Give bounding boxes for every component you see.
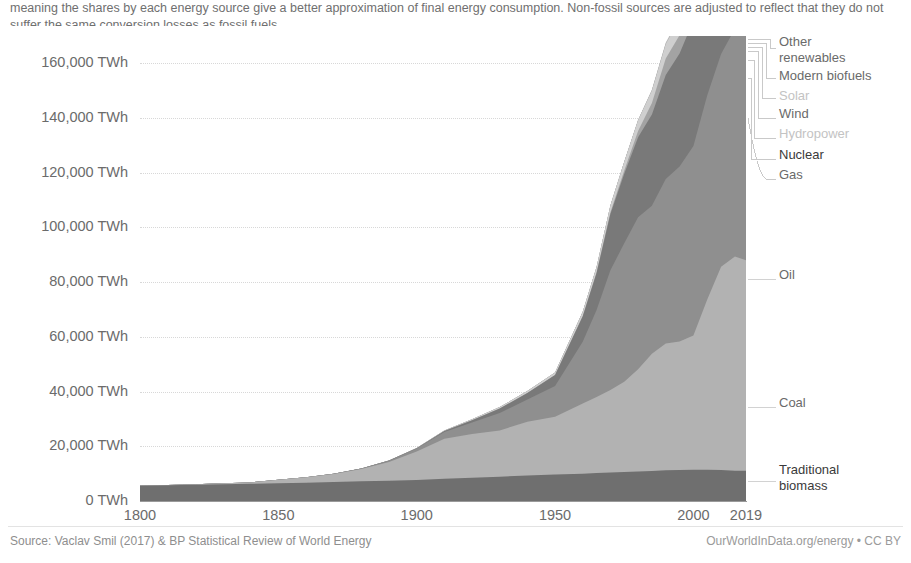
y-axis-tick-label: 0 TWh [0, 492, 128, 508]
x-axis-tick-label: 1900 [377, 507, 457, 523]
y-axis-tick-label: 40,000 TWh [0, 383, 128, 399]
y-axis-tick-label: 160,000 TWh [0, 54, 128, 70]
legend-item-solar[interactable]: Solar [779, 88, 809, 104]
x-axis-tick-label: 1950 [515, 507, 595, 523]
stacked-area-svg [140, 36, 746, 501]
legend-item-nuclear[interactable]: Nuclear [779, 147, 824, 163]
y-axis-tick-label: 60,000 TWh [0, 328, 128, 344]
legend-item-other-renewables[interactable]: Other renewables [779, 34, 846, 65]
x-axis-tick-label: 1800 [100, 507, 180, 523]
y-axis-tick-label: 80,000 TWh [0, 273, 128, 289]
legend-item-hydropower[interactable]: Hydropower [779, 126, 849, 142]
legend-item-coal[interactable]: Coal [779, 395, 806, 411]
plot-region [140, 36, 746, 501]
chart-legend: Other renewablesModern biofuelsSolarWind… [748, 26, 911, 526]
y-axis-tick-label: 120,000 TWh [0, 164, 128, 180]
legend-item-traditional-biomass[interactable]: Traditional biomass [779, 462, 839, 493]
x-axis-line [140, 501, 747, 502]
source-note: Source: Vaclav Smil (2017) & BP Statisti… [10, 534, 371, 548]
x-axis-tick-label: 1850 [238, 507, 318, 523]
chart-footer: Source: Vaclav Smil (2017) & BP Statisti… [0, 526, 911, 563]
y-axis-tick-label: 100,000 TWh [0, 218, 128, 234]
footer-divider [8, 526, 903, 527]
subtitle-clip: Primary energy consumption is measured i… [0, 0, 911, 26]
y-axis-tick-label: 20,000 TWh [0, 437, 128, 453]
legend-item-wind[interactable]: Wind [779, 106, 809, 122]
credit-note[interactable]: OurWorldInData.org/energy • CC BY [706, 534, 901, 548]
legend-item-gas[interactable]: Gas [779, 167, 803, 183]
chart-subtitle: Primary energy consumption is measured i… [10, 0, 890, 26]
legend-item-oil[interactable]: Oil [779, 267, 795, 283]
legend-item-modern-biofuels[interactable]: Modern biofuels [779, 68, 872, 84]
y-axis-tick-label: 140,000 TWh [0, 109, 128, 125]
